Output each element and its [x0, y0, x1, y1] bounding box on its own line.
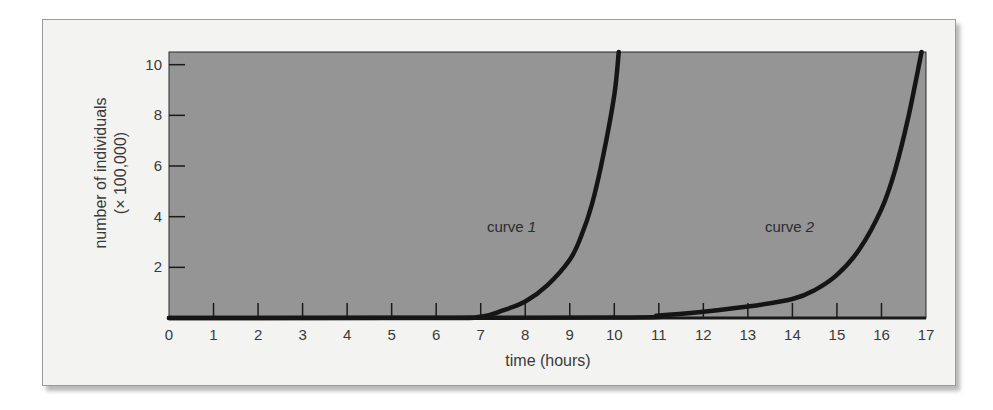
x-axis-title: time (hours)	[505, 352, 590, 369]
x-tick-label: 3	[298, 326, 306, 343]
plot-area	[169, 52, 926, 318]
x-tick-label: 2	[254, 326, 262, 343]
x-tick-label: 14	[784, 326, 801, 343]
x-tick-label: 4	[343, 326, 351, 343]
x-tick-label: 8	[521, 326, 529, 343]
x-tick-label: 6	[432, 326, 440, 343]
x-tick-label: 15	[829, 326, 846, 343]
curve-1-label: curve 1	[487, 218, 536, 235]
y-tick-label: 10	[145, 56, 162, 73]
x-tick-label: 1	[209, 326, 217, 343]
x-tick-label: 9	[566, 326, 574, 343]
y-axis-title-line1: number of individuals	[92, 97, 109, 248]
y-tick-label: 8	[154, 106, 162, 123]
x-tick-label: 10	[606, 326, 623, 343]
x-tick-label: 7	[477, 326, 485, 343]
y-axis-title-line2: (× 100,000)	[112, 132, 129, 214]
curve-2-label: curve 2	[765, 218, 815, 235]
x-tick-label: 13	[740, 326, 757, 343]
x-tick-label: 5	[387, 326, 395, 343]
exponential-growth-chart: 01234567891011121314151617 246810 curve …	[0, 0, 993, 410]
x-tick-label: 12	[695, 326, 712, 343]
x-tick-label: 16	[873, 326, 890, 343]
x-tick-label: 17	[918, 326, 935, 343]
y-axis-title: number of individuals (× 100,000)	[92, 97, 129, 248]
y-tick-label: 4	[154, 208, 162, 225]
x-tick-label: 0	[165, 326, 173, 343]
x-tick-label: 11	[651, 326, 667, 343]
y-tick-label: 6	[154, 157, 162, 174]
y-tick-label: 2	[154, 258, 162, 275]
